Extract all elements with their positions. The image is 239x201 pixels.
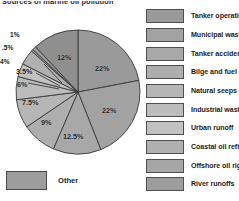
other-legend-row: Other xyxy=(6,171,78,190)
chart-figure: Sources of marine oil pollution 12% 22% … xyxy=(0,0,239,201)
legend-swatch xyxy=(146,121,184,135)
legend-item[interactable]: Tanker operations xyxy=(146,8,238,24)
other-label: Other xyxy=(58,176,78,185)
legend-item[interactable]: Bilge and fuel oils xyxy=(146,64,238,80)
legend-swatch xyxy=(146,177,184,191)
slice-label-0-5: .5% xyxy=(2,44,13,51)
slice-label-12-5: 12.5% xyxy=(63,132,83,141)
legend-item[interactable]: Offshore oil rigs xyxy=(146,158,238,174)
legend-swatch xyxy=(146,9,184,23)
legend-label: Offshore oil rigs xyxy=(191,162,239,170)
legend-label: Tanker accidents xyxy=(191,50,239,58)
legend-label: Tanker operations xyxy=(191,12,239,20)
legend-item[interactable]: Industrial waste xyxy=(146,101,238,117)
legend-item[interactable]: Urban runoff xyxy=(146,120,238,136)
legend-swatch xyxy=(146,65,184,79)
legend-item[interactable]: Municipal wastes xyxy=(146,27,238,43)
other-swatch xyxy=(6,171,47,190)
legend-item[interactable]: River runoffs xyxy=(146,176,238,192)
slice-label-7-5: 7.5% xyxy=(22,98,38,107)
legend-label: Urban runoff xyxy=(191,124,233,132)
legend-swatch xyxy=(146,103,184,117)
legend-swatch xyxy=(146,47,184,61)
legend-label: River runoffs xyxy=(191,180,235,188)
legend-swatch xyxy=(146,159,184,173)
slice-label-6: 6% xyxy=(17,80,27,89)
legend-swatch xyxy=(146,28,184,42)
legend-label: Natural seeps xyxy=(191,87,237,95)
slice-label-1: 1% xyxy=(10,31,20,38)
slice-label-3-5: 3.5% xyxy=(16,67,32,76)
legend-label: Coastal oil refining xyxy=(191,143,239,151)
slice-label-4: 4% xyxy=(0,58,10,65)
legend-swatch xyxy=(146,140,184,154)
legend-item[interactable]: Coastal oil refining xyxy=(146,139,238,155)
slice-label-12: 12% xyxy=(57,53,71,62)
legend-label: Bilge and fuel oils xyxy=(191,68,239,76)
legend: Tanker operationsMunicipal wastesTanker … xyxy=(146,8,238,195)
legend-label: Municipal wastes xyxy=(191,31,239,39)
legend-item[interactable]: Natural seeps xyxy=(146,83,238,99)
page-title: Sources of marine oil pollution xyxy=(2,0,114,6)
legend-item[interactable]: Tanker accidents xyxy=(146,45,238,61)
slice-label-22-a: 22% xyxy=(95,64,109,73)
slice-label-9: 9% xyxy=(41,118,51,127)
legend-swatch xyxy=(146,84,184,98)
slice-label-22-b: 22% xyxy=(102,106,116,115)
legend-label: Industrial waste xyxy=(191,106,239,114)
pie-chart: 12% 22% 22% 12.5% 9% 7.5% 6% 3.5% 4% .5%… xyxy=(14,28,142,156)
